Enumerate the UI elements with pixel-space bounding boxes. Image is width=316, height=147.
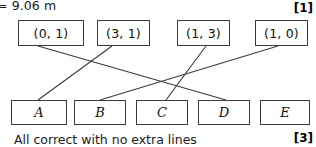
question-sheet: = 9.06 m ) [1] (0, 1)(3, 1)(1, 3)(1, 0) … [0, 0, 316, 147]
coordinate-node-label: (1, 0) [264, 26, 299, 41]
letter-node-label: D [219, 105, 229, 120]
link-coord4-to-B [100, 46, 278, 100]
coordinate-node-coord4[interactable]: (1, 0) [255, 20, 308, 46]
letter-node-label: B [95, 105, 105, 120]
marks-bottom: [3] [294, 131, 313, 145]
letter-node-b[interactable]: B [74, 100, 126, 125]
letter-node-d[interactable]: D [198, 100, 250, 125]
link-coord1-to-D [38, 46, 226, 100]
link-coord3-to-C [166, 46, 206, 100]
letter-node-label: E [280, 105, 290, 120]
coordinate-node-label: (0, 1) [34, 26, 69, 41]
marks-top: [1] [294, 1, 313, 15]
letter-node-e[interactable]: E [260, 100, 310, 125]
coordinate-node-label: (1, 3) [186, 26, 221, 41]
previous-answer-fragment: = 9.06 m [0, 0, 56, 13]
letter-node-label: A [34, 105, 43, 120]
coordinate-node-coord3[interactable]: (1, 3) [177, 20, 230, 46]
coordinate-node-coord2[interactable]: (3, 1) [97, 20, 150, 46]
letter-node-label: C [157, 105, 167, 120]
coordinate-node-coord1[interactable]: (0, 1) [18, 20, 84, 46]
marking-caption: All correct with no extra lines [14, 132, 197, 147]
link-coord2-to-A [38, 46, 112, 100]
letter-node-c[interactable]: C [136, 100, 188, 125]
coordinate-node-label: (3, 1) [106, 26, 141, 41]
letter-node-a[interactable]: A [11, 100, 67, 125]
